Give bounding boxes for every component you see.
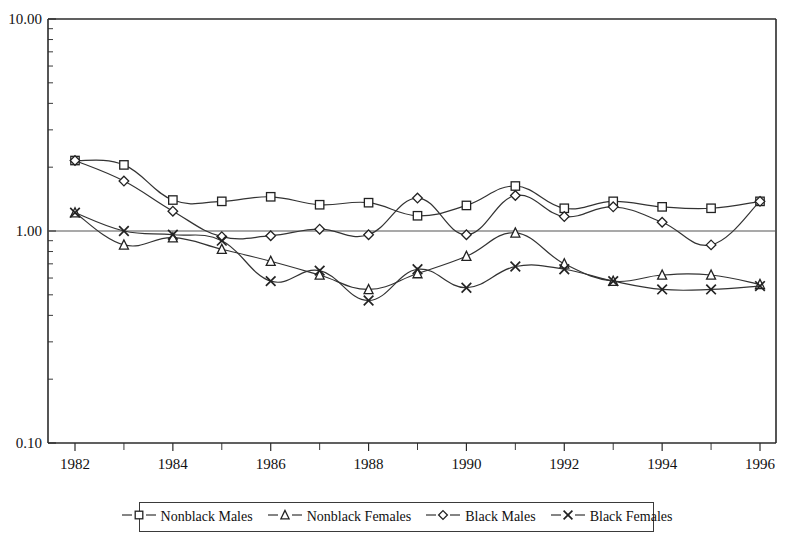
series-line (75, 213, 760, 301)
data-point-marker-square (511, 182, 519, 190)
legend-marker-diamond-icon (425, 507, 461, 527)
legend-item-label: Nonblack Males (161, 509, 253, 525)
legend-item[interactable]: Black Males (425, 507, 535, 527)
x-axis-tick-label: 1984 (158, 456, 189, 472)
data-point-marker-diamond (706, 240, 716, 250)
data-point-marker-square (462, 201, 470, 209)
data-point-marker-square (218, 197, 226, 205)
data-point-marker-square (658, 203, 666, 211)
data-point-marker-diamond (413, 193, 423, 203)
data-point-marker-cross (563, 511, 572, 520)
data-point-marker-diamond (266, 231, 276, 241)
x-axis-tick-label: 1992 (549, 456, 579, 472)
data-point-marker-diamond (315, 224, 325, 234)
legend-item[interactable]: Nonblack Males (121, 507, 253, 527)
x-axis-labels: 19821984198619881990199219941996 (60, 456, 776, 472)
x-axis-tick-label: 1988 (354, 456, 384, 472)
data-point-marker-square (364, 198, 372, 206)
data-point-marker-cross (266, 276, 276, 286)
x-axis-tick-label: 1996 (745, 456, 776, 472)
data-point-marker-square (267, 193, 275, 201)
legend-item[interactable]: Black Females (550, 507, 673, 527)
data-point-marker-square (707, 204, 715, 212)
data-point-marker-diamond (657, 217, 667, 227)
x-axis-tick-label: 1994 (647, 456, 678, 472)
data-point-marker-triangle (281, 510, 289, 518)
legend-item-label: Black Males (465, 509, 535, 525)
x-axis-tick-label: 1990 (451, 456, 481, 472)
chart-figure: 10.001.000.10 19821984198619881990199219… (0, 0, 790, 542)
data-point-marker-diamond (119, 176, 129, 186)
y-axis-tick-label: 10.00 (8, 11, 42, 27)
legend-marker-square-icon (121, 507, 157, 527)
axis-ticks (48, 19, 760, 451)
x-axis-tick-label: 1986 (256, 456, 287, 472)
data-point-marker-square (135, 511, 143, 519)
line-chart-plot: 10.001.000.10 19821984198619881990199219… (0, 0, 790, 542)
data-point-marker-triangle (462, 251, 471, 260)
x-axis-tick-label: 1982 (60, 456, 90, 472)
legend-marker-cross-icon (550, 507, 586, 527)
y-axis-tick-label: 1.00 (16, 223, 42, 239)
data-point-marker-square (413, 212, 421, 220)
chart-legend: Nonblack MalesNonblack FemalesBlack Male… (139, 502, 654, 532)
data-point-marker-diamond (168, 206, 178, 216)
data-point-marker-diamond (511, 191, 521, 201)
legend-item-label: Nonblack Females (307, 509, 412, 525)
data-point-marker-diamond (559, 212, 569, 222)
data-point-marker-diamond (439, 511, 448, 520)
data-point-marker-square (120, 161, 128, 169)
legend-item-label: Black Females (590, 509, 673, 525)
y-axis-labels: 10.001.000.10 (8, 11, 42, 451)
legend-item[interactable]: Nonblack Females (267, 507, 412, 527)
y-axis-tick-label: 0.10 (16, 435, 42, 451)
legend-marker-triangle-icon (267, 507, 303, 527)
data-point-marker-square (315, 201, 323, 209)
series-line (75, 160, 760, 216)
data-point-marker-square (169, 196, 177, 204)
